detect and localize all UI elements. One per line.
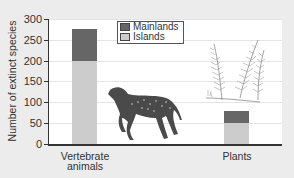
y-tick: [44, 61, 48, 62]
bar-segment-islands: [72, 61, 97, 144]
x-category-label-line: animals: [55, 161, 115, 171]
bar-vertebrate-animals: [72, 29, 97, 144]
y-tick: [44, 102, 48, 103]
bar-segment-islands: [224, 123, 249, 144]
y-tick: [44, 40, 48, 41]
y-tick-label: 100: [24, 97, 42, 108]
legend-swatch-mainlands: [120, 23, 130, 31]
y-tick: [44, 81, 48, 82]
bar-segment-mainlands: [72, 29, 97, 61]
y-tick-label: 0: [36, 139, 42, 150]
legend-label: Islands: [133, 32, 165, 42]
y-tick-label: 300: [24, 14, 42, 25]
gridline: [49, 19, 282, 20]
y-tick: [44, 19, 48, 20]
legend: Mainlands Islands: [117, 21, 184, 44]
y-tick-label: 250: [24, 35, 42, 46]
y-axis-title: Number of extinct species: [6, 21, 18, 142]
bar-segment-mainlands: [224, 111, 249, 123]
x-category-label-plants: Plants: [216, 151, 258, 161]
x-axis: [48, 144, 282, 146]
legend-item-islands: Islands: [118, 32, 183, 42]
y-tick-label: 150: [24, 76, 42, 87]
y-tick: [44, 144, 48, 145]
y-tick: [44, 123, 48, 124]
fern-illustration: [200, 30, 275, 105]
x-category-label-vertebrate: Vertebrate animals: [55, 151, 115, 171]
animal-illustration: [108, 84, 188, 144]
y-tick-label: 200: [24, 56, 42, 67]
y-axis: [48, 19, 49, 145]
legend-swatch-islands: [120, 33, 130, 41]
y-tick-label: 50: [30, 118, 42, 129]
bar-plants: [224, 111, 249, 144]
